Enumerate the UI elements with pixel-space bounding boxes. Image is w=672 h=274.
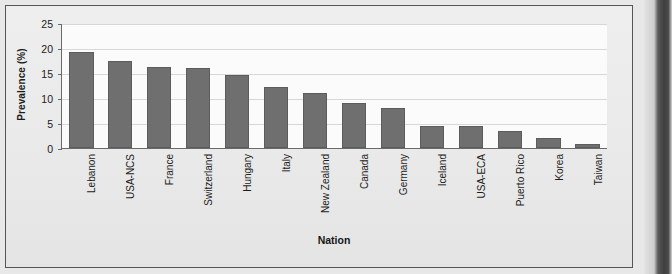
x-label-slot: USA-ECA — [451, 152, 490, 230]
y-axis-title-label: Prevalence (%) — [16, 48, 27, 121]
bar — [536, 138, 560, 148]
bar-slot — [218, 24, 257, 148]
x-label-slot: Hungary — [217, 152, 256, 230]
y-axis-tick-label: 10 — [41, 93, 53, 105]
x-label-slot: Lebanon — [61, 152, 100, 230]
bar-slot — [101, 24, 140, 148]
bar — [459, 126, 483, 148]
x-axis-tick-label: Canada — [359, 154, 370, 189]
x-label-slot: Italy — [256, 152, 295, 230]
x-axis-tick-label: Taiwan — [593, 154, 604, 185]
bar-slot — [451, 24, 490, 148]
y-axis-title: Prevalence (%) — [10, 24, 32, 144]
y-axis-tick-label: 25 — [41, 18, 53, 30]
x-label-slot: Korea — [529, 152, 568, 230]
x-axis-tick-label: Iceland — [437, 154, 448, 186]
x-axis-tick-label: Puerto Rico — [515, 154, 526, 206]
bar — [69, 52, 93, 148]
plot-area — [61, 24, 607, 149]
bar-slot — [568, 24, 607, 148]
y-axis-tick-label: 0 — [47, 143, 53, 155]
y-axis-tick-labels: 2520151050 — [30, 19, 56, 149]
bar-slot — [412, 24, 451, 148]
x-label-slot: USA-NCS — [100, 152, 139, 230]
bar — [108, 61, 132, 148]
x-label-slot: New Zealand — [295, 152, 334, 230]
bar-slot — [490, 24, 529, 148]
x-label-slot: Iceland — [412, 152, 451, 230]
x-axis-tick-label: USA-NCS — [125, 154, 136, 199]
x-label-slot: Taiwan — [568, 152, 607, 230]
x-axis-title: Nation — [61, 234, 607, 246]
chart-screenshot: Prevalence (%) 2520151050 LebanonUSA-NCS… — [0, 0, 672, 274]
bar-slot — [296, 24, 335, 148]
bar-series — [62, 24, 607, 148]
bar-slot — [257, 24, 296, 148]
scan-edge-dark — [654, 0, 672, 274]
bar-slot — [373, 24, 412, 148]
x-axis-tick-label: USA-ECA — [476, 154, 487, 198]
x-axis-tick-labels: LebanonUSA-NCSFranceSwitzerlandHungaryIt… — [61, 152, 607, 230]
figure-frame: Prevalence (%) 2520151050 LebanonUSA-NCS… — [5, 5, 633, 268]
bar — [420, 126, 444, 148]
y-axis-tick-label: 20 — [41, 43, 53, 55]
x-axis-tick-label: Korea — [554, 154, 565, 181]
bar-slot — [334, 24, 373, 148]
x-label-slot: Germany — [373, 152, 412, 230]
y-axis-tick-label: 5 — [47, 118, 53, 130]
x-axis-tick-label: Switzerland — [203, 154, 214, 206]
bar-slot — [62, 24, 101, 148]
x-axis-tick-label: Hungary — [242, 154, 253, 192]
bar — [381, 108, 405, 148]
bar — [342, 103, 366, 148]
bar — [147, 67, 171, 148]
x-axis-tick-label: Lebanon — [86, 154, 97, 193]
bar — [498, 131, 522, 148]
x-label-slot: France — [139, 152, 178, 230]
bar-slot — [529, 24, 568, 148]
x-axis-tick-label: Germany — [398, 154, 409, 195]
x-axis-tick-label: France — [164, 154, 175, 185]
y-axis-tickmark — [58, 149, 62, 150]
bar — [575, 144, 599, 148]
bar — [225, 75, 249, 148]
x-axis-tick-label: New Zealand — [320, 154, 331, 213]
y-axis-tick-label: 15 — [41, 68, 53, 80]
scan-edge-light — [644, 0, 654, 274]
bar — [303, 93, 327, 148]
bar-slot — [179, 24, 218, 148]
x-axis-tick-label: Italy — [281, 154, 292, 172]
bar-slot — [140, 24, 179, 148]
bar — [264, 87, 288, 148]
bar — [186, 68, 210, 148]
x-label-slot: Canada — [334, 152, 373, 230]
x-label-slot: Puerto Rico — [490, 152, 529, 230]
x-label-slot: Switzerland — [178, 152, 217, 230]
